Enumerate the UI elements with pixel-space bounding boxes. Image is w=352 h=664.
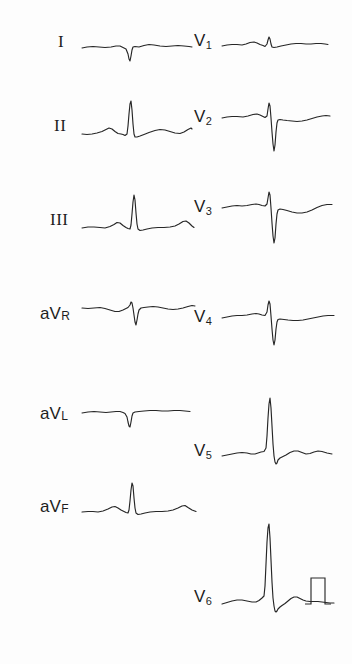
lead-label-aVF: aVF	[40, 498, 68, 515]
waveform-II	[82, 101, 192, 137]
lead-trace-V5-svg	[222, 396, 338, 476]
lead-label-V1: V1	[194, 32, 211, 49]
lead-label-V3: V3	[194, 198, 211, 215]
lead-label-V2: V2	[194, 108, 211, 125]
calibration-pulse	[304, 574, 338, 608]
lead-trace-V4	[222, 296, 340, 352]
lead-trace-V4-svg	[222, 296, 340, 352]
lead-label-aVL: aVL	[40, 405, 67, 422]
calibration-pulse-svg	[304, 574, 338, 608]
lead-trace-II-svg	[82, 88, 196, 150]
lead-label-V3-subscript: 3	[206, 205, 212, 217]
lead-label-V2-subscript: 2	[206, 115, 212, 127]
waveform-V4	[222, 301, 334, 345]
lead-trace-aVF	[82, 470, 200, 528]
lead-trace-V6-svg	[222, 520, 340, 624]
lead-label-V6-subscript: 6	[206, 595, 212, 607]
lead-trace-V3-svg	[222, 186, 338, 250]
lead-trace-V2	[222, 96, 336, 158]
lead-label-I: I	[58, 33, 64, 50]
lead-trace-V1-svg	[222, 20, 334, 64]
waveform-I	[82, 45, 192, 62]
lead-label-V1-subscript: 1	[206, 39, 212, 51]
waveform-aVR	[82, 302, 195, 325]
lead-trace-aVR	[82, 286, 200, 338]
waveform-aVL	[82, 411, 190, 428]
lead-label-V6: V6	[194, 588, 211, 605]
lead-trace-I	[82, 20, 196, 64]
lead-trace-I-svg	[82, 20, 196, 64]
waveform-aVF	[82, 483, 196, 515]
lead-label-aVL-subscript: L	[61, 409, 68, 423]
lead-label-aVR-subscript: R	[61, 309, 70, 323]
waveform-V3	[222, 192, 332, 243]
waveform-V2	[222, 103, 330, 151]
lead-label-III: III	[50, 211, 68, 228]
lead-label-aVR: aVR	[40, 305, 69, 322]
lead-trace-III-svg	[82, 182, 198, 244]
lead-trace-aVR-svg	[82, 286, 200, 338]
lead-trace-V5	[222, 396, 338, 476]
lead-trace-III	[82, 182, 198, 244]
lead-trace-V3	[222, 186, 338, 250]
lead-trace-II	[82, 88, 196, 150]
lead-label-V5: V5	[194, 442, 211, 459]
waveform-V5	[222, 398, 332, 464]
lead-trace-V1	[222, 20, 334, 64]
lead-trace-aVL-svg	[82, 395, 194, 437]
lead-label-II: II	[54, 117, 66, 134]
lead-label-V4-subscript: 4	[206, 315, 212, 327]
calibration-pulse-path	[305, 578, 331, 604]
waveform-III	[82, 195, 194, 231]
lead-label-aVF-subscript: F	[61, 502, 68, 516]
waveform-V1	[222, 37, 328, 48]
ecg-sheet: I II III aVR aVL	[0, 0, 352, 664]
lead-trace-V2-svg	[222, 96, 336, 158]
lead-trace-V6	[222, 520, 340, 624]
lead-trace-aVL	[82, 395, 194, 437]
lead-label-V4: V4	[194, 308, 211, 325]
lead-label-V5-subscript: 5	[206, 449, 212, 461]
lead-trace-aVF-svg	[82, 470, 200, 528]
